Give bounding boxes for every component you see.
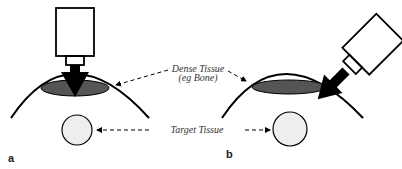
panel-label-b: b: [226, 148, 233, 160]
target-tissue-b: [273, 112, 307, 146]
diagram-canvas: a b Dense Tissue (eg Bone) Target Tissue: [0, 0, 402, 169]
panel-label-a: a: [8, 152, 15, 164]
dense-tissue-text-2: (eg Bone): [178, 72, 218, 84]
target-tissue-label: Target Tissue: [97, 124, 270, 135]
target-tissue-a: [62, 115, 92, 145]
dense-tissue-label: Dense Tissue (eg Bone): [116, 63, 246, 85]
transducer-b: [336, 14, 402, 81]
panel-b: b: [222, 14, 402, 160]
target-tissue-text: Target Tissue: [171, 124, 224, 135]
leader-dense-b: [228, 71, 246, 81]
leader-dense-a: [116, 70, 168, 85]
dense-tissue-b: [252, 80, 326, 94]
transducer-tip-a: [66, 56, 84, 65]
transducer-a: [56, 8, 94, 56]
panel-a: a: [8, 8, 149, 164]
